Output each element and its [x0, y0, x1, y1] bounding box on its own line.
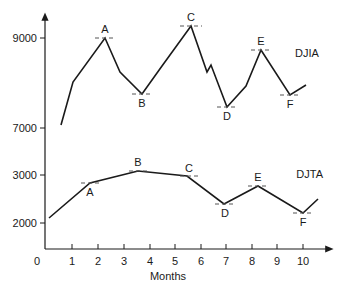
- djta-point-f: F: [300, 216, 307, 228]
- x-label-7: 7: [223, 255, 229, 267]
- x-axis-title: Months: [150, 270, 187, 282]
- x-label-6: 6: [198, 255, 204, 267]
- x-label-8: 8: [249, 255, 255, 267]
- x-tick-labels: 0 1 2 3 4 5 6 7 8 9 10: [34, 255, 309, 267]
- djta-turning-labels: A B C D E F: [86, 156, 306, 228]
- djta-point-d: D: [221, 207, 229, 219]
- djia-point-d: D: [223, 110, 231, 122]
- djta-point-b: B: [134, 156, 141, 168]
- djia-point-c: C: [187, 11, 195, 23]
- x-label-10: 10: [297, 255, 309, 267]
- x-label-9: 9: [274, 255, 280, 267]
- djta-point-c: C: [185, 162, 193, 174]
- y-label-9000: 9000: [13, 32, 37, 44]
- djia-turning-labels: A B C D E F: [101, 11, 293, 122]
- djia-point-b: B: [138, 97, 145, 109]
- origin-label: 0: [34, 255, 40, 267]
- x-label-5: 5: [172, 255, 178, 267]
- djta-series-label: DJTA: [296, 168, 323, 180]
- x-label-3: 3: [121, 255, 127, 267]
- djia-turning-markers: [95, 26, 301, 107]
- y-ticks: [40, 38, 45, 223]
- djia-point-f: F: [287, 98, 294, 110]
- chart-container: 9000 7000 3000 2000 0 1 2 3 4 5 6 7 8 9 …: [0, 0, 343, 293]
- djia-series-label: DJIA: [295, 47, 320, 59]
- y-label-7000: 7000: [13, 122, 37, 134]
- x-label-2: 2: [95, 255, 101, 267]
- y-label-2000: 2000: [13, 217, 37, 229]
- x-label-4: 4: [147, 255, 153, 267]
- y-tick-labels: 9000 7000 3000 2000: [13, 32, 37, 229]
- djta-point-e: E: [254, 171, 261, 183]
- djia-point-e: E: [257, 35, 264, 47]
- djta-point-a: A: [86, 186, 94, 198]
- y-label-3000: 3000: [13, 169, 37, 181]
- djia-line: [61, 26, 306, 125]
- x-label-1: 1: [69, 255, 75, 267]
- djia-point-a: A: [101, 23, 109, 35]
- x-ticks: [72, 244, 303, 249]
